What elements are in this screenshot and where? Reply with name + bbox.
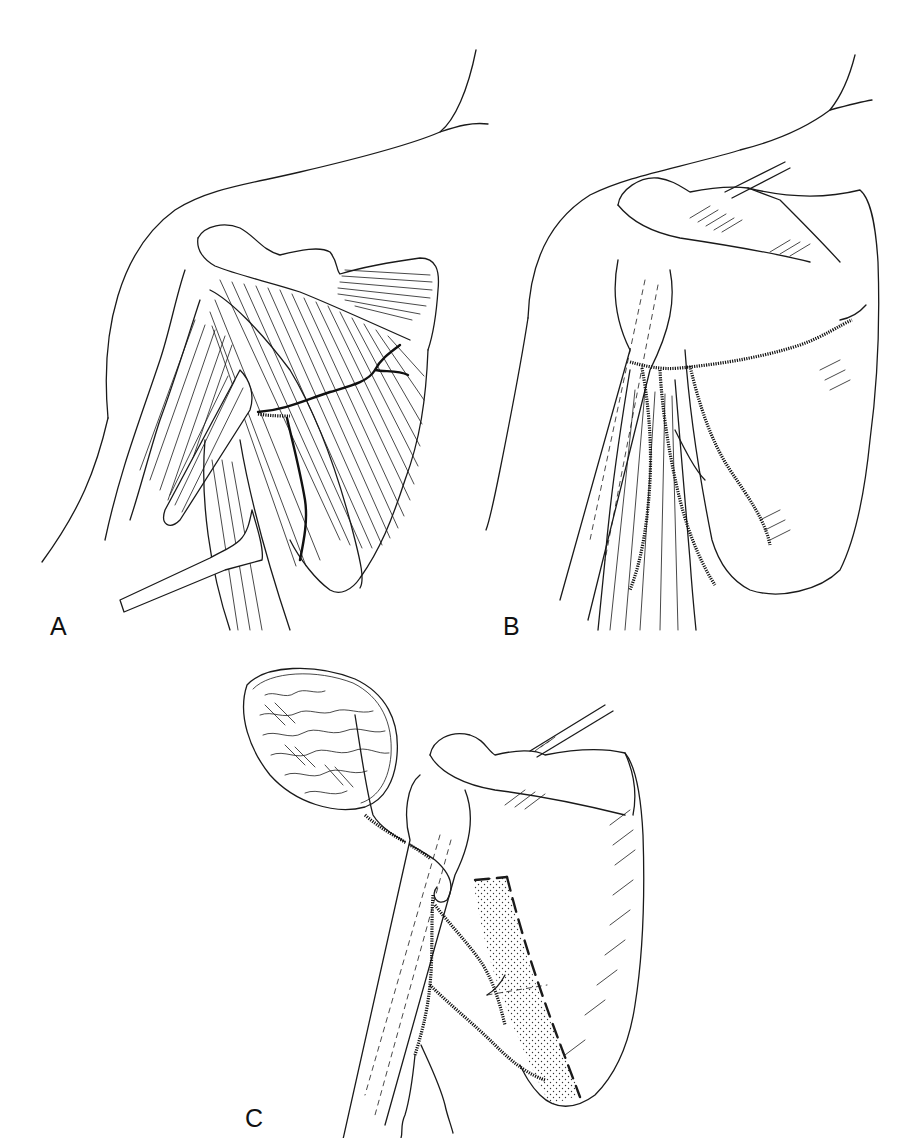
- skin-paddle: [244, 668, 398, 809]
- panel-a-illustration: [0, 0, 450, 640]
- panel-label-b: B: [503, 614, 520, 639]
- panel-b-illustration: [480, 0, 909, 640]
- panel-c-illustration: [225, 655, 695, 1138]
- panel-b: B: [480, 0, 909, 640]
- panel-a: A: [0, 0, 450, 640]
- stippled-bone-segment: [473, 877, 580, 1105]
- panel-label-a: A: [50, 614, 67, 639]
- panel-c: C: [225, 655, 695, 1138]
- panel-label-c: C: [245, 1106, 263, 1131]
